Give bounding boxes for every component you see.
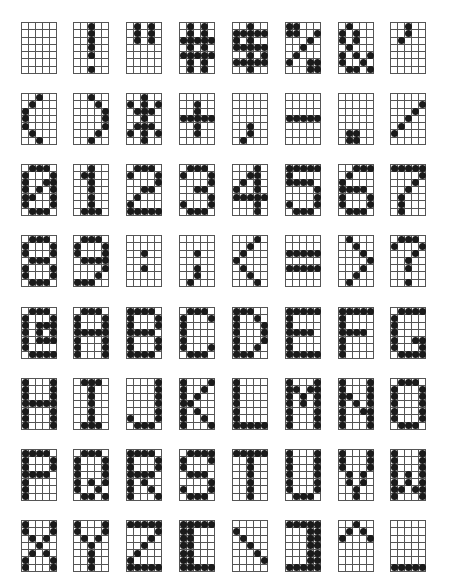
dot-cell — [353, 401, 360, 408]
empty-cell — [300, 187, 307, 194]
empty-cell — [405, 394, 412, 401]
glyph-grid — [390, 235, 426, 287]
glyph-grid — [21, 22, 57, 74]
empty-cell — [233, 236, 240, 243]
dot-cell — [261, 194, 268, 201]
empty-cell — [81, 394, 88, 401]
dot-cell — [141, 308, 148, 315]
empty-cell — [293, 472, 300, 479]
empty-cell — [50, 101, 57, 108]
empty-cell — [187, 123, 194, 130]
empty-cell — [398, 138, 405, 145]
empty-cell — [314, 323, 321, 330]
empty-cell — [367, 557, 374, 564]
dot-cell — [254, 450, 261, 457]
empty-cell — [360, 423, 367, 430]
empty-cell — [339, 543, 346, 550]
empty-cell — [95, 550, 102, 557]
glyph-grid — [338, 164, 374, 216]
glyph-grid — [179, 164, 215, 216]
dot-cell — [194, 472, 201, 479]
dot-cell — [254, 280, 261, 287]
empty-cell — [261, 536, 268, 543]
empty-cell — [141, 528, 148, 535]
dot-cell — [180, 344, 187, 351]
dot-cell — [314, 165, 321, 172]
empty-cell — [194, 172, 201, 179]
empty-cell — [180, 280, 187, 287]
empty-cell — [254, 479, 261, 486]
empty-cell — [398, 330, 405, 337]
glyph-grid — [232, 93, 268, 145]
empty-cell — [300, 123, 307, 130]
empty-cell — [346, 408, 353, 415]
empty-cell — [148, 457, 155, 464]
glyph-grid — [21, 449, 57, 501]
empty-cell — [360, 23, 367, 30]
empty-cell — [208, 528, 215, 535]
dot-cell — [155, 465, 162, 472]
empty-cell — [141, 59, 148, 66]
empty-cell — [201, 258, 208, 265]
empty-cell — [405, 494, 412, 501]
dot-cell — [155, 528, 162, 535]
dot-cell — [307, 67, 314, 74]
dot-cell — [405, 30, 412, 37]
dot-cell — [201, 165, 208, 172]
empty-cell — [29, 521, 36, 528]
empty-cell — [36, 457, 43, 464]
empty-cell — [74, 23, 81, 30]
dot-cell — [314, 308, 321, 315]
dot-cell — [353, 521, 360, 528]
empty-cell — [95, 315, 102, 322]
empty-cell — [398, 52, 405, 59]
empty-cell — [391, 201, 398, 208]
empty-cell — [102, 138, 109, 145]
empty-cell — [29, 138, 36, 145]
dot-cell — [43, 337, 50, 344]
empty-cell — [127, 280, 134, 287]
dot-cell — [398, 209, 405, 216]
glyph-grid — [126, 307, 162, 359]
empty-cell — [353, 315, 360, 322]
empty-cell — [254, 457, 261, 464]
empty-cell — [240, 465, 247, 472]
empty-cell — [300, 94, 307, 101]
dot-cell — [36, 187, 43, 194]
glyph-grid — [21, 93, 57, 145]
glyph-grid — [390, 449, 426, 501]
empty-cell — [353, 408, 360, 415]
dot-cell — [194, 272, 201, 279]
empty-cell — [194, 236, 201, 243]
empty-cell — [240, 479, 247, 486]
empty-cell — [307, 423, 314, 430]
empty-cell — [102, 280, 109, 287]
dot-cell — [74, 352, 81, 359]
empty-cell — [194, 23, 201, 30]
empty-cell — [180, 472, 187, 479]
dot-cell — [127, 172, 134, 179]
dot-cell — [22, 494, 29, 501]
empty-cell — [127, 180, 134, 187]
dot-cell — [314, 30, 321, 37]
empty-cell — [102, 408, 109, 415]
empty-cell — [148, 59, 155, 66]
empty-cell — [314, 45, 321, 52]
empty-cell — [254, 130, 261, 137]
empty-cell — [127, 116, 134, 123]
empty-cell — [148, 550, 155, 557]
empty-cell — [95, 565, 102, 572]
dot-cell — [201, 521, 208, 528]
dot-cell — [293, 251, 300, 258]
dot-cell — [293, 209, 300, 216]
empty-cell — [300, 379, 307, 386]
empty-cell — [293, 94, 300, 101]
dot-cell — [254, 30, 261, 37]
empty-cell — [141, 280, 148, 287]
empty-cell — [102, 45, 109, 52]
dot-cell — [194, 308, 201, 315]
empty-cell — [240, 521, 247, 528]
empty-cell — [391, 101, 398, 108]
dot-cell — [102, 123, 109, 130]
empty-cell — [419, 265, 426, 272]
